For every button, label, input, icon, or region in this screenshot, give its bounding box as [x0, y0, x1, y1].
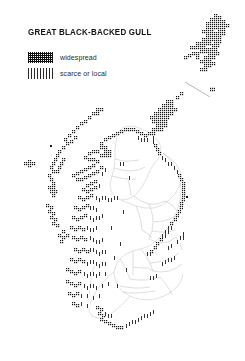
cells-argyll-clyde — [66, 248, 110, 308]
cells-st-kilda — [24, 145, 52, 168]
cells-north-coast — [96, 128, 162, 158]
cells-galloway — [96, 306, 156, 330]
map-title: GREAT BLACK-BACKED GULL — [28, 27, 152, 37]
cells-shetland — [184, 14, 230, 72]
legend-label-widespread: widespread — [60, 52, 97, 63]
legend-swatch-widespread — [28, 52, 53, 63]
cells-west-coast — [70, 150, 108, 244]
cells-east-coast — [147, 156, 188, 280]
legend-swatch-scarce — [28, 68, 53, 79]
cells-orkney — [150, 92, 184, 132]
graticule-tick — [185, 82, 210, 97]
cells-fair-isle — [210, 87, 215, 92]
legend-label-scarce: scarce or local — [60, 68, 107, 79]
map-page: GREAT BLACK-BACKED GULL widespread scarc… — [0, 0, 245, 361]
